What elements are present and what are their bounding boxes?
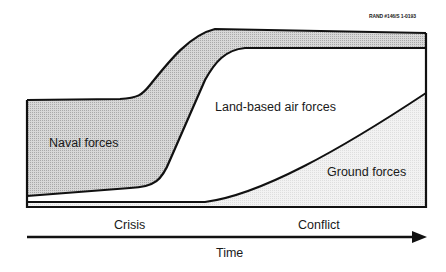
air-forces-label: Land-based air forces (215, 100, 336, 114)
reference-code: RAND #146/S 1-0193 (369, 13, 416, 19)
naval-forces-label: Naval forces (49, 136, 118, 150)
ground-forces-label: Ground forces (327, 165, 406, 179)
crisis-phase-label: Crisis (114, 218, 145, 232)
time-axis-label: Time (216, 246, 243, 260)
time-axis-arrowhead (412, 231, 427, 243)
conflict-phase-label: Conflict (298, 218, 340, 232)
